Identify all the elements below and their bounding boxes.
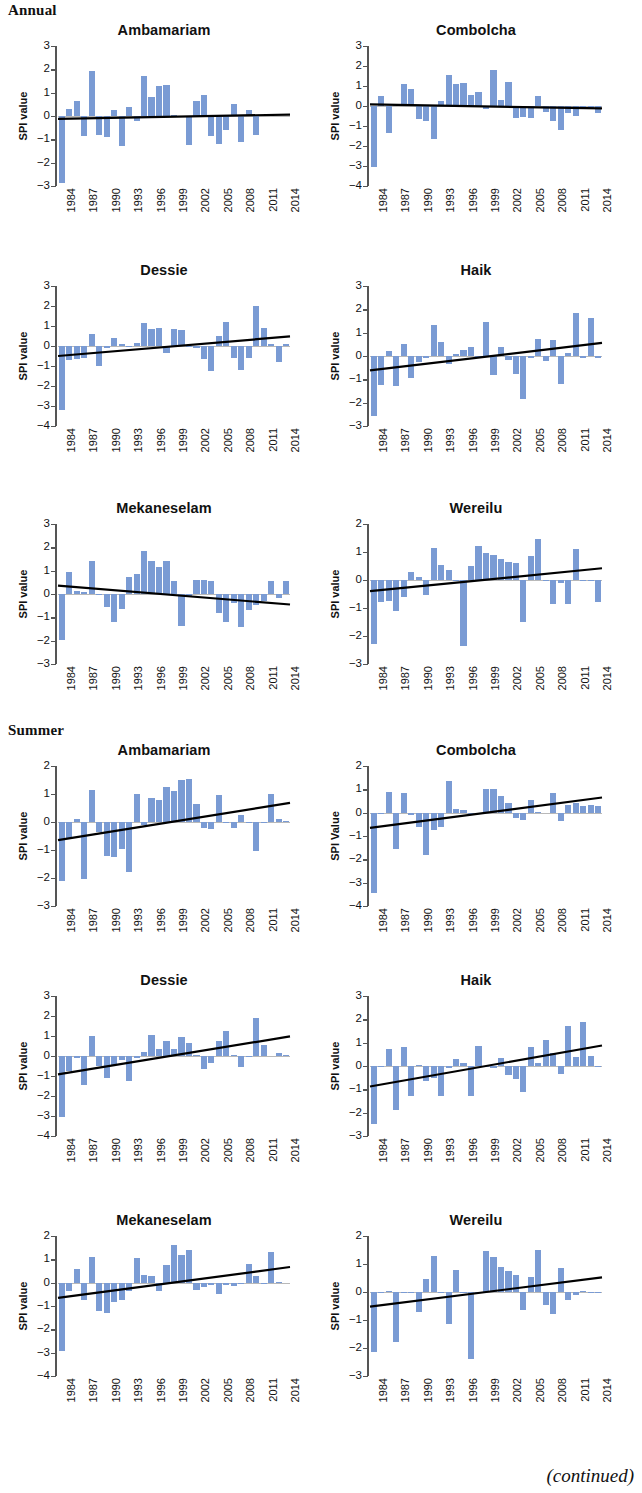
x-tick-label: 1996 <box>468 908 479 932</box>
y-tick-label: 1 <box>356 1258 362 1270</box>
trend-line <box>370 766 602 906</box>
y-tick-label: −1 <box>37 134 50 146</box>
x-tick-label: 1996 <box>156 1138 167 1162</box>
x-tick-label: 1987 <box>88 188 99 212</box>
y-tick-label: −2 <box>37 157 50 169</box>
x-tick-label: 2011 <box>580 666 591 690</box>
y-tick-mark <box>363 1066 368 1067</box>
x-tick-label: 1999 <box>490 908 501 932</box>
plot-canvas <box>58 286 290 426</box>
chart-title: Mekaneselam <box>14 500 314 516</box>
y-tick-mark <box>51 46 56 47</box>
y-tick-label: −3 <box>349 1370 362 1382</box>
x-tick-label: 1990 <box>423 428 434 452</box>
x-tick-label: 1987 <box>400 188 411 212</box>
x-tick-label: 1996 <box>156 908 167 932</box>
y-tick-mark <box>51 69 56 70</box>
x-axis-ticks: 1984198719901993199619992002200520082011… <box>370 1138 602 1200</box>
y-tick-label: −2 <box>37 872 50 884</box>
x-tick-label: 2002 <box>512 428 523 452</box>
x-tick-label: 1993 <box>445 428 456 452</box>
y-tick-label: 1 <box>44 788 50 800</box>
y-tick-label: −4 <box>349 900 362 912</box>
y-tick-label: −4 <box>37 1130 50 1142</box>
x-tick-label: 1993 <box>133 428 144 452</box>
y-tick-mark <box>363 1089 368 1090</box>
x-tick-label: 1984 <box>66 908 77 932</box>
y-tick-label: −4 <box>349 180 362 192</box>
y-tick-mark <box>51 794 56 795</box>
y-tick-label: 0 <box>356 1060 362 1072</box>
x-tick-label: 1999 <box>490 1378 501 1402</box>
y-tick-mark <box>51 286 56 287</box>
x-tick-label: 2002 <box>200 666 211 690</box>
y-tick-mark <box>51 406 56 407</box>
x-tick-label: 2002 <box>200 908 211 932</box>
y-tick-mark <box>51 1036 56 1037</box>
chart-panel-summer-haik: HaikSPI value−3−2−1012319841987199019931… <box>326 972 626 1204</box>
x-tick-label: 1993 <box>133 908 144 932</box>
x-tick-label: 1990 <box>111 908 122 932</box>
plot-area: SPI value−3−2−10123198419871990199319961… <box>14 524 314 732</box>
y-tick-mark <box>363 286 368 287</box>
y-tick-label: 3 <box>356 40 362 52</box>
y-tick-mark <box>363 1019 368 1020</box>
chart-panel-annual-dessie: DessieSPI value−4−3−2−101231984198719901… <box>14 262 314 494</box>
chart-title: Dessie <box>14 262 314 278</box>
y-tick-label: 2 <box>356 1014 362 1026</box>
x-tick-label: 1990 <box>423 1138 434 1162</box>
y-tick-label: 1 <box>44 1030 50 1042</box>
y-tick-mark <box>51 386 56 387</box>
x-tick-label: 2011 <box>268 1378 279 1402</box>
y-tick-label: 1 <box>356 784 362 796</box>
x-tick-label: 2008 <box>245 428 256 452</box>
plot-area: SPI value−4−3−2−101231984198719901993199… <box>326 46 626 254</box>
y-tick-label: −4 <box>37 1370 50 1382</box>
trend-line <box>58 1236 290 1376</box>
x-tick-label: 1996 <box>156 428 167 452</box>
y-axis-ticks: −3−2−1012 <box>340 524 366 664</box>
plot-canvas <box>58 1236 290 1376</box>
x-tick-label: 1990 <box>423 1378 434 1402</box>
y-tick-label: −3 <box>349 160 362 172</box>
x-tick-label: 1996 <box>468 1378 479 1402</box>
plot-canvas <box>370 1236 602 1376</box>
plot-area: SPI value−3−2−10121984198719901993199619… <box>326 1236 626 1444</box>
x-tick-label: 1984 <box>66 188 77 212</box>
y-tick-label: −2 <box>349 140 362 152</box>
x-tick-label: 2014 <box>602 428 613 452</box>
plot-canvas <box>58 766 290 906</box>
y-tick-mark <box>363 426 368 427</box>
y-tick-mark <box>363 186 368 187</box>
x-tick-label: 1993 <box>445 1138 456 1162</box>
y-tick-label: 2 <box>44 542 50 554</box>
x-tick-label: 1990 <box>111 1378 122 1402</box>
x-tick-label: 1993 <box>133 188 144 212</box>
y-tick-label: −4 <box>37 420 50 432</box>
x-axis-ticks: 1984198719901993199619992002200520082011… <box>370 1378 602 1440</box>
x-tick-label: 2005 <box>535 428 546 452</box>
y-tick-label: 2 <box>356 304 362 316</box>
y-tick-label: 3 <box>44 990 50 1002</box>
y-tick-mark <box>363 1320 368 1321</box>
y-tick-mark <box>363 524 368 525</box>
section-header-annual: Annual <box>8 2 57 19</box>
y-tick-label: 0 <box>356 350 362 362</box>
plot-area: SPI Value−4−3−2−101219841987199019931996… <box>326 766 626 974</box>
trend-line <box>58 46 290 186</box>
x-tick-label: 1984 <box>66 428 77 452</box>
plot-area: SPI value−3−2−10123198419871990199319961… <box>326 996 626 1204</box>
y-tick-label: 2 <box>356 518 362 530</box>
x-tick-label: 2008 <box>557 908 568 932</box>
x-tick-label: 2014 <box>290 666 301 690</box>
y-tick-label: −2 <box>37 1324 50 1336</box>
x-tick-label: 2008 <box>245 188 256 212</box>
y-tick-mark <box>363 46 368 47</box>
y-tick-mark <box>51 93 56 94</box>
x-tick-label: 2005 <box>223 428 234 452</box>
y-tick-mark <box>51 346 56 347</box>
y-tick-label: −3 <box>349 658 362 670</box>
plot-area: SPI value−3−2−10123198419871990199319961… <box>326 286 626 494</box>
x-tick-label: 2014 <box>602 908 613 932</box>
y-tick-mark <box>363 309 368 310</box>
